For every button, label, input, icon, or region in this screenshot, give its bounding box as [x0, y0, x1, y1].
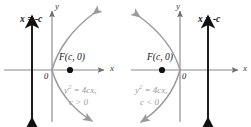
- focus-label-right: F(c, 0): [147, 53, 173, 63]
- origin-label-left: 0: [44, 72, 48, 81]
- y-axis-label-right: y: [176, 2, 180, 11]
- equation-line1-left: y2 = 4cx,: [64, 84, 97, 95]
- equation-rest-left: = 4cx,: [71, 85, 96, 95]
- focus-label-left: F(c, 0): [59, 53, 85, 63]
- focus-point-left: [67, 67, 73, 73]
- parabola-panel-left: x = -c y x F(c, 0) 0 y2 = 4cx, c > 0: [0, 0, 125, 127]
- directrix-label-left: x = -c: [20, 15, 42, 25]
- equation-line2-right: c < 0: [140, 98, 159, 107]
- parabola-panel-right: x = -c y x F(c, 0) 0 y2 = 4cx, c < 0: [126, 0, 251, 127]
- equation-line2-left: c > 0: [69, 98, 88, 107]
- equation-line1-right: y2 = 4cx,: [135, 84, 168, 95]
- focus-point-right: [159, 67, 165, 73]
- y-axis-label-left: y: [55, 2, 59, 11]
- x-axis-label-left: x: [110, 64, 114, 73]
- equation-rest-right: = 4cx,: [142, 85, 167, 95]
- origin-label-right: 0: [182, 72, 186, 81]
- directrix-label-right: x = -c: [198, 15, 220, 25]
- x-axis-label-right: x: [243, 64, 247, 73]
- parabola-figure: x = -c y x F(c, 0) 0 y2 = 4cx, c > 0: [0, 0, 251, 127]
